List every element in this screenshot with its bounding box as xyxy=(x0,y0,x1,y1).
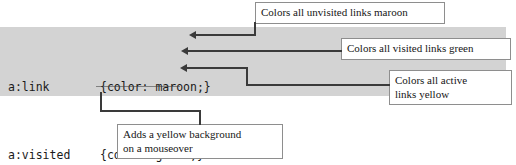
annotated-css-figure: a:link {color: maroon;} a:visited {color… xyxy=(0,0,516,165)
leader-active-arrowhead xyxy=(180,64,187,72)
leader-hover-vertical-tall xyxy=(100,92,102,112)
leader-hover-vertical-short xyxy=(199,110,201,125)
leader-visited-arrowhead xyxy=(181,47,188,55)
callout-active-links: Colors all active links yellow xyxy=(389,70,512,105)
leader-active-vertical xyxy=(246,67,248,86)
leader-hover-horizontal xyxy=(100,110,201,112)
leader-active-horizontal-upper xyxy=(187,67,248,69)
selector-a-visited: a:visited xyxy=(8,147,100,164)
callout-visited-links: Colors all visited links green xyxy=(341,38,511,60)
callout-unvisited-links: Colors all unvisited links maroon xyxy=(255,2,445,24)
selector-a-link: a:link xyxy=(8,79,100,96)
leader-unvisited-horizontal xyxy=(196,34,256,36)
declaration-a-link: {color: maroon;} xyxy=(100,79,211,96)
leader-visited-horizontal xyxy=(188,50,342,52)
leader-unvisited-arrowhead xyxy=(189,31,196,39)
leader-active-horizontal-lower xyxy=(246,84,390,86)
scan-artifact-line xyxy=(96,86,180,87)
callout-hover-background: Adds a yellow background on a mouseover xyxy=(117,124,283,159)
